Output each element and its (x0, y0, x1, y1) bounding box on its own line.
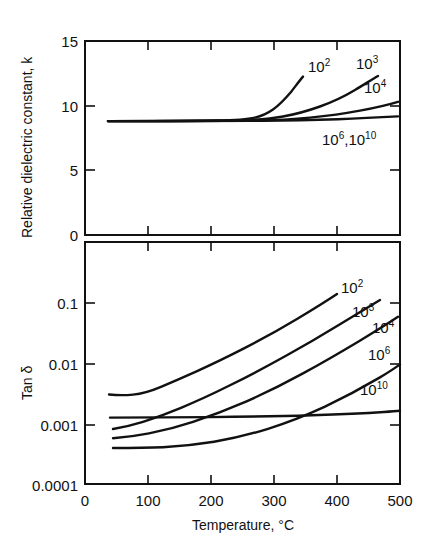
bottom-label-10e2-exp: 2 (358, 278, 364, 289)
bottom-ytick-label-0.1: 0.1 (57, 295, 78, 312)
bottom-ytick-label-0.01: 0.01 (49, 356, 78, 373)
figure-container: 15 10 5 0 Relative dielectric constant, … (0, 0, 426, 547)
top-label-10e3-base: 10 (356, 55, 373, 72)
bottom-label-10e4-base: 10 (372, 319, 389, 336)
bottom-panel-y-axis-title: Tan δ (19, 366, 35, 400)
top-curve-label-10e6-10e10: 106,1010 (322, 130, 377, 148)
top-panel-group: 15 10 5 0 Relative dielectric constant, … (19, 33, 400, 244)
bottom-label-10e6-exp: 6 (385, 345, 391, 356)
top-curve-label-10e4: 104 (364, 78, 387, 96)
x-axis-title: Temperature, °C (192, 517, 294, 533)
curve-top-10e2 (108, 77, 303, 122)
xtick-label-100: 100 (135, 492, 160, 509)
top-label-10e10-base: 10 (348, 131, 365, 148)
bottom-label-10e2-base: 10 (341, 279, 358, 296)
top-ytick-label-5: 5 (70, 162, 78, 179)
top-curve-label-10e3: 103 (356, 54, 379, 72)
top-label-10e4-exp: 4 (381, 78, 387, 89)
svg-text:1010: 1010 (360, 380, 388, 398)
svg-text:102: 102 (308, 57, 331, 75)
svg-text:102: 102 (341, 278, 364, 296)
top-panel-y-axis-title: Relative dielectric constant, k (19, 56, 35, 238)
top-label-10e3-exp: 3 (373, 54, 379, 65)
bottom-curve-label-10e3: 103 (352, 302, 375, 320)
svg-text:104: 104 (372, 318, 395, 336)
svg-text:103: 103 (356, 54, 379, 72)
curve-bottom-10e6 (113, 364, 400, 448)
bottom-curve-label-10e2: 102 (341, 278, 364, 296)
curve-bottom-10e2 (109, 294, 337, 395)
top-ytick-label-10: 10 (61, 98, 78, 115)
xtick-label-300: 300 (261, 492, 286, 509)
bottom-label-10e4-exp: 4 (389, 318, 395, 329)
top-label-10e6-base: 10 (322, 131, 339, 148)
top-ytick-label-15: 15 (61, 33, 78, 50)
bottom-panel-y-ticks-left (85, 303, 95, 425)
top-label-10e4-base: 10 (364, 79, 381, 96)
top-panel-x-ticks-top (148, 41, 337, 50)
top-panel-y-ticks-left (85, 106, 95, 170)
top-label-10e2-base: 10 (308, 58, 325, 75)
svg-text:103: 103 (352, 302, 375, 320)
bottom-ytick-label-0.001: 0.001 (40, 417, 78, 434)
bottom-panel-group: 0.1 0.01 0.001 0.0001 Tan δ 102 103 (19, 242, 413, 533)
xtick-label-400: 400 (324, 492, 349, 509)
top-panel-x-ticks-bottom (148, 226, 337, 235)
bottom-panel-x-ticks-bottom (148, 475, 337, 484)
top-label-10e10-exp: 10 (365, 130, 377, 141)
bottom-label-10e3-base: 10 (352, 303, 369, 320)
svg-text:104: 104 (364, 78, 387, 96)
bottom-ytick-label-0.0001: 0.0001 (32, 477, 78, 494)
curve-bottom-10e3 (113, 300, 380, 429)
dielectric-properties-figure: 15 10 5 0 Relative dielectric constant, … (0, 0, 426, 547)
bottom-label-10e3-exp: 3 (369, 302, 375, 313)
xtick-label-200: 200 (198, 492, 223, 509)
svg-text:106,1010: 106,1010 (322, 130, 377, 148)
svg-text:106: 106 (368, 345, 391, 363)
bottom-curve-label-10e10: 1010 (360, 380, 388, 398)
top-label-10e2-exp: 2 (325, 57, 331, 68)
bottom-panel-x-ticks-top (148, 242, 337, 251)
top-ytick-label-0: 0 (70, 227, 78, 244)
bottom-curve-label-10e6: 106 (368, 345, 391, 363)
top-curve-label-10e2: 102 (308, 57, 331, 75)
bottom-curve-label-10e4: 104 (372, 318, 395, 336)
bottom-label-10e6-base: 10 (368, 346, 385, 363)
bottom-label-10e10-base: 10 (360, 381, 377, 398)
bottom-label-10e10-exp: 10 (377, 380, 389, 391)
curve-bottom-10e4 (113, 317, 398, 438)
curve-bottom-10e10 (110, 411, 400, 418)
xtick-label-500: 500 (387, 492, 412, 509)
xtick-label-0: 0 (81, 492, 89, 509)
